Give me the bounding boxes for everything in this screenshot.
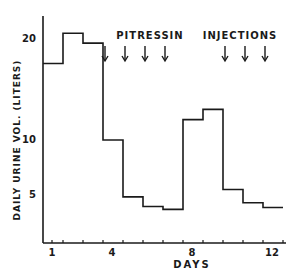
injection-arrows [102,46,268,61]
y-axis-label: DAILY URINE VOL. (LITERS) [12,60,22,221]
y-tick-5: 5 [29,189,36,200]
x-axis-label: DAYS [173,259,211,270]
y-tick-20: 20 [22,33,36,44]
x-tick-4: 4 [109,247,116,258]
x-tick-12: 12 [265,247,279,258]
step-chart: 20 10 5 1 4 8 12 DAYS DAILY URINE VOL. (… [0,0,303,276]
y-tick-10: 10 [22,134,36,145]
step-series [43,33,283,209]
annotation-pitressin: PITRESSIN [116,30,183,41]
x-tick-8: 8 [189,247,196,258]
x-tick-1: 1 [49,247,56,258]
annotation-injections: INJECTIONS [203,30,278,41]
